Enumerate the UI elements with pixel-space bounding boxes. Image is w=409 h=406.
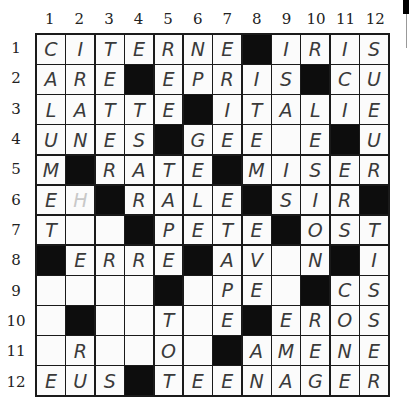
grid-cell[interactable] — [125, 336, 153, 365]
grid-cell[interactable]: P — [213, 276, 241, 305]
grid-cell[interactable]: E — [155, 65, 183, 94]
grid-cell[interactable]: E — [301, 336, 329, 365]
grid-cell[interactable]: C — [331, 65, 359, 94]
grid-cell[interactable]: E — [184, 216, 212, 245]
grid-cell[interactable]: C — [37, 35, 65, 64]
grid-cell[interactable]: U — [66, 366, 94, 395]
grid-cell[interactable]: L — [37, 95, 65, 124]
grid-cell[interactable] — [37, 306, 65, 335]
grid-cell[interactable]: R — [125, 186, 153, 215]
grid-cell[interactable]: A — [243, 336, 271, 365]
grid-cell[interactable]: S — [360, 276, 388, 305]
grid-cell[interactable]: R — [96, 156, 124, 185]
grid-cell[interactable] — [66, 216, 94, 245]
grid-cell[interactable]: E — [37, 186, 65, 215]
grid-cell[interactable]: T — [96, 35, 124, 64]
grid-cell[interactable]: G — [301, 366, 329, 395]
grid-cell[interactable]: E — [213, 125, 241, 154]
grid-cell[interactable] — [184, 276, 212, 305]
grid-cell[interactable]: L — [184, 186, 212, 215]
grid-cell[interactable]: E — [243, 276, 271, 305]
grid-cell[interactable]: N — [301, 246, 329, 275]
grid-cell[interactable] — [184, 336, 212, 365]
grid-cell[interactable]: A — [37, 65, 65, 94]
grid-cell[interactable]: R — [301, 306, 329, 335]
grid-cell[interactable]: U — [37, 125, 65, 154]
grid-cell[interactable]: E — [213, 366, 241, 395]
grid-cell[interactable] — [272, 125, 300, 154]
grid-cell[interactable]: A — [125, 156, 153, 185]
grid-cell[interactable]: R — [301, 35, 329, 64]
grid-cell[interactable]: C — [331, 276, 359, 305]
grid-cell[interactable]: S — [331, 216, 359, 245]
grid-cell[interactable]: T — [125, 95, 153, 124]
grid-cell[interactable]: E — [243, 125, 271, 154]
grid-cell[interactable] — [66, 276, 94, 305]
grid-cell[interactable]: E — [184, 156, 212, 185]
grid-cell[interactable]: E — [360, 336, 388, 365]
grid-cell[interactable]: R — [360, 366, 388, 395]
grid-cell[interactable]: M — [37, 156, 65, 185]
grid-cell[interactable]: U — [360, 125, 388, 154]
grid-cell[interactable]: P — [155, 216, 183, 245]
grid-cell[interactable]: A — [272, 95, 300, 124]
grid-cell[interactable]: E — [301, 125, 329, 154]
grid-cell[interactable]: E — [96, 125, 124, 154]
grid-cell[interactable]: S — [360, 35, 388, 64]
grid-cell[interactable]: E — [37, 366, 65, 395]
grid-cell[interactable]: N — [331, 336, 359, 365]
grid-cell[interactable]: H — [66, 186, 94, 215]
grid-cell[interactable]: M — [272, 336, 300, 365]
grid-cell[interactable] — [184, 306, 212, 335]
grid-cell[interactable]: E — [66, 246, 94, 275]
grid-cell[interactable]: A — [66, 95, 94, 124]
grid-cell[interactable]: S — [301, 156, 329, 185]
grid-cell[interactable]: M — [243, 156, 271, 185]
grid-cell[interactable]: E — [155, 95, 183, 124]
grid-cell[interactable]: T — [243, 95, 271, 124]
grid-cell[interactable] — [272, 276, 300, 305]
grid-cell[interactable]: R — [360, 156, 388, 185]
grid-cell[interactable]: E — [331, 156, 359, 185]
grid-cell[interactable]: R — [125, 246, 153, 275]
grid-cell[interactable]: R — [331, 186, 359, 215]
grid-cell[interactable]: N — [184, 35, 212, 64]
grid-cell[interactable]: R — [213, 65, 241, 94]
grid-cell[interactable]: G — [184, 125, 212, 154]
grid-cell[interactable] — [96, 276, 124, 305]
grid-cell[interactable] — [96, 306, 124, 335]
grid-cell[interactable]: I — [243, 65, 271, 94]
grid-cell[interactable]: I — [360, 246, 388, 275]
grid-cell[interactable]: S — [96, 366, 124, 395]
grid-cell[interactable]: I — [213, 95, 241, 124]
grid-cell[interactable]: S — [272, 186, 300, 215]
grid-cell[interactable]: T — [155, 156, 183, 185]
grid-cell[interactable]: U — [360, 65, 388, 94]
grid-cell[interactable]: E — [213, 35, 241, 64]
grid-cell[interactable] — [96, 336, 124, 365]
grid-cell[interactable]: E — [213, 186, 241, 215]
grid-cell[interactable] — [37, 276, 65, 305]
grid-cell[interactable]: T — [155, 366, 183, 395]
grid-cell[interactable]: T — [37, 216, 65, 245]
grid-cell[interactable]: E — [360, 95, 388, 124]
grid-cell[interactable]: R — [96, 246, 124, 275]
grid-cell[interactable] — [125, 276, 153, 305]
grid-cell[interactable]: R — [66, 65, 94, 94]
grid-cell[interactable]: V — [243, 246, 271, 275]
grid-cell[interactable]: I — [301, 186, 329, 215]
grid-cell[interactable] — [125, 306, 153, 335]
grid-cell[interactable]: P — [184, 65, 212, 94]
grid-cell[interactable]: I — [331, 35, 359, 64]
grid-cell[interactable]: E — [184, 366, 212, 395]
grid-cell[interactable]: N — [243, 366, 271, 395]
grid-cell[interactable]: L — [301, 95, 329, 124]
grid-cell[interactable]: I — [331, 95, 359, 124]
grid-cell[interactable]: S — [360, 306, 388, 335]
grid-cell[interactable]: E — [96, 65, 124, 94]
grid-cell[interactable]: O — [331, 306, 359, 335]
grid-cell[interactable]: E — [125, 35, 153, 64]
grid-cell[interactable]: N — [66, 125, 94, 154]
grid-cell[interactable]: S — [272, 65, 300, 94]
grid-cell[interactable]: I — [272, 156, 300, 185]
